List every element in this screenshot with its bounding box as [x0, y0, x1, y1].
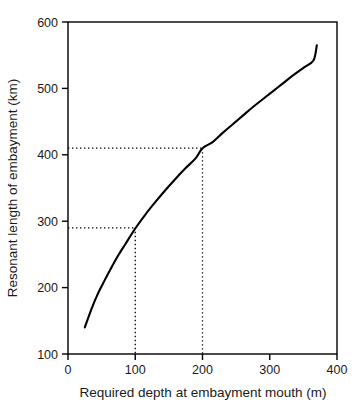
- x-tick-label-100: 100: [125, 363, 146, 377]
- y-tick-label-100: 100: [37, 348, 58, 362]
- y-tick-label-400: 400: [37, 148, 58, 162]
- chart-figure: 100200300400500600 0100200300400 Require…: [0, 0, 358, 409]
- y-tick-label-300: 300: [37, 215, 58, 229]
- y-tick-label-500: 500: [37, 82, 58, 96]
- y-tick-label-600: 600: [37, 16, 58, 30]
- y-axis-title: Resonant length of embayment (km): [5, 79, 20, 297]
- x-tick-label-0: 0: [65, 363, 72, 377]
- chart-canvas: 100200300400500600 0100200300400 Require…: [0, 0, 358, 409]
- x-axis-title: Required depth at embayment mouth (m): [80, 385, 327, 400]
- x-tick-label-200: 200: [192, 363, 213, 377]
- y-tick-label-200: 200: [37, 281, 58, 295]
- x-tick-label-300: 300: [259, 363, 280, 377]
- x-tick-label-400: 400: [327, 363, 348, 377]
